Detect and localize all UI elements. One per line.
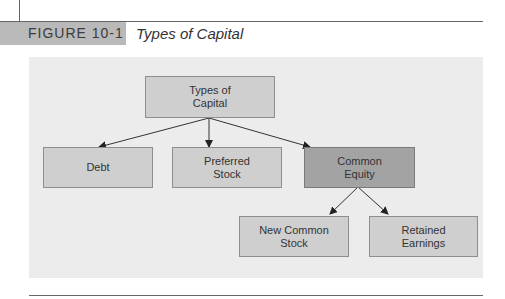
node-retained-earnings: RetainedEarnings bbox=[369, 216, 478, 257]
bottom-rule bbox=[29, 295, 483, 296]
node-debt: Debt bbox=[43, 147, 153, 188]
node-text-line2: Stock bbox=[204, 168, 250, 181]
node-text-line2: Stock bbox=[259, 237, 329, 250]
node-text-line1: Debt bbox=[86, 161, 109, 174]
node-common-equity: CommonEquity bbox=[304, 147, 415, 188]
node-text-line2: Earnings bbox=[401, 237, 445, 250]
node-text-line1: Preferred bbox=[204, 155, 250, 168]
arrow-to-new-common bbox=[330, 187, 358, 214]
node-text-line2: Equity bbox=[337, 168, 382, 181]
arrow-to-common bbox=[209, 118, 310, 147]
arrow-to-debt bbox=[99, 118, 209, 147]
node-text-line1: Common bbox=[337, 155, 382, 168]
node-text-line1: Retained bbox=[401, 224, 445, 237]
node-text-line1: Types of bbox=[189, 84, 231, 97]
node-text-line2: Capital bbox=[189, 97, 231, 110]
node-text-line1: New Common bbox=[259, 224, 329, 237]
node-preferred-stock: PreferredStock bbox=[172, 147, 282, 188]
arrow-to-retained bbox=[358, 187, 388, 214]
node-new-common-stock: New CommonStock bbox=[239, 216, 349, 257]
node-types-of-capital: Types ofCapital bbox=[145, 76, 275, 118]
